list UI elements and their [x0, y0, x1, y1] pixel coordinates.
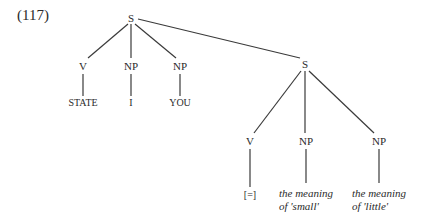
tree-edges	[0, 0, 422, 217]
tree-node-embedded-v: V	[246, 135, 254, 147]
tree-leaf-you: YOU	[169, 97, 191, 109]
tree-leaf-i: I	[129, 97, 132, 109]
tree-node-np-2: NP	[173, 60, 187, 72]
leaf-line-2: of 'small'	[279, 200, 333, 213]
leaf-line-1: the meaning	[279, 187, 333, 200]
tree-leaf-meaning-little: the meaning of 'little'	[352, 187, 406, 213]
leaf-line-1: the meaning	[352, 187, 406, 200]
tree-node-root-s: S	[128, 12, 134, 24]
tree-node-embedded-np-1: NP	[299, 135, 313, 147]
tree-leaf-equals: [=]	[244, 189, 256, 201]
tree-node-embedded-s: S	[302, 58, 308, 70]
leaf-line-2: of 'little'	[352, 200, 406, 213]
tree-node-v: V	[79, 60, 87, 72]
tree-leaf-meaning-small: the meaning of 'small'	[279, 187, 333, 213]
tree-node-embedded-np-2: NP	[372, 135, 386, 147]
tree-node-np-1: NP	[124, 60, 138, 72]
tree-leaf-state: STATE	[68, 97, 97, 109]
